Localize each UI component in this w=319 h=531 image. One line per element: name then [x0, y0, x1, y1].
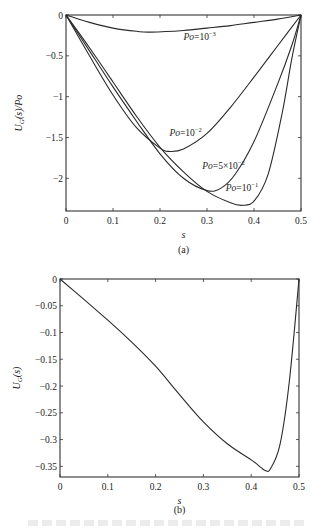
chart-panel-a: 00.10.20.30.40.50−0.5−1−1.5−2Po=10−3Po=1… [0, 0, 319, 262]
x-axis-title: s [182, 229, 186, 240]
x-tick-label: 0.3 [201, 216, 213, 226]
faded-caption-fragment [28, 520, 308, 526]
y-axis-title: UG(s) [11, 366, 24, 390]
y-tick-label: −0.05 [35, 301, 57, 311]
y-tick-label: −1 [53, 92, 63, 102]
curve-label: Po=10−3 [183, 30, 216, 42]
y-tick-label: −0.1 [40, 328, 57, 338]
x-tick-label: 0 [64, 216, 69, 226]
x-tick-label: 0.2 [150, 482, 162, 492]
x-tick-label: 0 [58, 482, 63, 492]
line-chart-b: 00.10.20.30.40.50−0.05−0.1−0.15−0.2−0.25… [0, 262, 319, 517]
line-chart-a: 00.10.20.30.40.50−0.5−1−1.5−2Po=10−3Po=1… [0, 0, 319, 262]
y-tick-label: −0.5 [46, 51, 63, 61]
panel-caption: (b) [174, 504, 186, 516]
y-tick-label: −0.2 [40, 382, 57, 392]
x-tick-label: 0.4 [245, 482, 257, 492]
x-tick-label: 0.4 [248, 216, 260, 226]
curve-label: Po=10−1 [225, 181, 258, 193]
y-tick-label: 0 [52, 275, 57, 285]
y-axis-title: UG(s)/Po [13, 95, 26, 132]
curve-label: Po=10−2 [168, 126, 201, 138]
y-tick-label: −2 [53, 174, 63, 184]
x-tick-label: 0.5 [293, 482, 305, 492]
y-tick-label: −1.5 [46, 133, 63, 143]
x-tick-label: 0.2 [154, 216, 166, 226]
data-curve-1 [66, 15, 301, 32]
y-tick-label: −0.35 [35, 462, 57, 472]
x-tick-label: 0.1 [107, 216, 119, 226]
chart-panel-b: 00.10.20.30.40.50−0.05−0.1−0.15−0.2−0.25… [0, 262, 319, 517]
y-tick-label: 0 [58, 11, 63, 21]
panel-caption: (a) [178, 244, 189, 256]
y-tick-label: −0.15 [35, 355, 57, 365]
plot-frame [60, 279, 299, 477]
x-tick-label: 0.3 [197, 482, 209, 492]
x-tick-label: 0.1 [102, 482, 114, 492]
data-curve-1 [60, 279, 299, 472]
x-tick-label: 0.5 [295, 216, 307, 226]
y-tick-label: −0.3 [40, 435, 57, 445]
y-tick-label: −0.25 [35, 408, 57, 418]
curve-label: Po=5×10−2 [201, 159, 244, 171]
data-curve-4 [66, 15, 301, 205]
